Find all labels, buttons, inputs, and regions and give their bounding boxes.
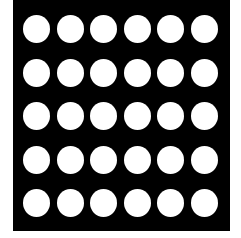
circle-hole: [57, 102, 84, 130]
circle-hole: [90, 15, 117, 43]
circle-hole: [124, 102, 151, 130]
circle-hole: [90, 189, 117, 217]
circle-hole: [23, 146, 50, 174]
circle-hole: [57, 189, 84, 217]
circle-hole: [90, 59, 117, 87]
circle-hole: [157, 102, 184, 130]
circle-hole: [191, 102, 218, 130]
circle-hole: [157, 146, 184, 174]
circle-hole: [57, 15, 84, 43]
circle-hole: [23, 189, 50, 217]
circle-hole: [23, 102, 50, 130]
circle-hole: [23, 59, 50, 87]
circle-hole: [157, 189, 184, 217]
circle-hole: [191, 189, 218, 217]
circle-hole: [124, 146, 151, 174]
circle-hole: [157, 59, 184, 87]
circle-hole: [191, 59, 218, 87]
circle-hole: [124, 59, 151, 87]
circle-hole: [90, 146, 117, 174]
circle-hole: [57, 146, 84, 174]
circle-hole: [191, 15, 218, 43]
circle-hole: [23, 15, 50, 43]
dot-grid-panel: [13, 0, 230, 231]
circle-hole: [191, 146, 218, 174]
circle-hole: [124, 189, 151, 217]
circle-hole: [124, 15, 151, 43]
circle-hole: [157, 15, 184, 43]
circle-hole: [90, 102, 117, 130]
circle-hole: [57, 59, 84, 87]
